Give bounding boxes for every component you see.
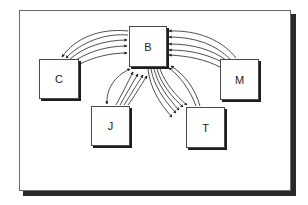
edge-j-to-b [128, 76, 147, 105]
node-c: C [39, 59, 79, 99]
node-c-label: C [55, 73, 63, 85]
node-m-label: M [235, 74, 244, 86]
node-j-label: J [108, 120, 114, 132]
edge-b-to-t [160, 69, 187, 105]
edge-m-to-b [169, 50, 222, 62]
edge-m-to-b [169, 44, 226, 60]
node-b: B [129, 26, 167, 67]
edge-b-to-j [107, 69, 130, 104]
edge-j-to-b [124, 75, 143, 105]
node-t-label: T [202, 122, 209, 134]
edge-j-to-b [120, 74, 138, 105]
edge-b-to-t [148, 69, 172, 117]
edge-m-to-b [169, 55, 220, 67]
edge-b-to-t [154, 69, 179, 110]
node-j: J [91, 106, 130, 146]
node-t: T [186, 107, 225, 148]
edge-c-to-b [80, 53, 127, 64]
diagram-canvas: B C M J T [0, 0, 308, 205]
node-b-label: B [144, 41, 151, 53]
node-m: M [220, 59, 259, 100]
edge-j-to-b [116, 72, 133, 105]
